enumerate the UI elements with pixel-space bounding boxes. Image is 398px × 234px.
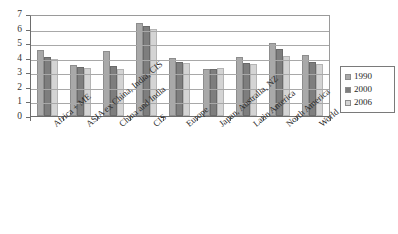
legend-label: 2006 [354, 98, 372, 107]
bar [44, 57, 51, 116]
legend-label: 2000 [354, 85, 372, 94]
x-axis-category-label: Japan, Australia, NZ [217, 121, 223, 129]
x-axis-labels: Africa + MEASIA ex China, India, CISChin… [0, 118, 340, 193]
x-axis-category-label: CIS [151, 121, 157, 129]
chart-legend: 199020002006 [340, 66, 395, 113]
legend-label: 1990 [354, 72, 372, 81]
x-axis-category-label: China and India [117, 121, 123, 129]
x-axis-category-label: Africa + ME [51, 121, 57, 129]
gridline [31, 31, 329, 32]
x-axis-category-label: North America [284, 121, 290, 129]
x-axis-category-label: Latin America [251, 121, 257, 129]
gridline [31, 74, 329, 75]
gridline [31, 45, 329, 46]
y-tick-label: 6 [17, 25, 22, 35]
y-axis: 01234567 [0, 0, 28, 117]
legend-item[interactable]: 2006 [345, 96, 391, 109]
bar [51, 59, 58, 116]
gridline [31, 60, 329, 61]
legend-item[interactable]: 2000 [345, 83, 391, 96]
y-tick-label: 3 [17, 68, 22, 78]
y-tick-label: 5 [17, 39, 22, 49]
legend-swatch-icon [345, 74, 351, 80]
y-tick-label: 1 [17, 97, 22, 107]
gridline [31, 89, 329, 90]
y-tick-label: 2 [17, 83, 22, 93]
x-axis-category-label: ASIA ex China, India, CIS [84, 121, 90, 129]
bar [283, 56, 290, 116]
y-tick-label: 4 [17, 54, 22, 64]
legend-swatch-icon [345, 100, 351, 106]
x-axis-category-label: World [317, 121, 323, 129]
x-axis-category-label: Europe [184, 121, 190, 129]
bar [210, 69, 217, 116]
y-tick-label: 7 [17, 10, 22, 20]
chart-root: 01234567 Africa + MEASIA ex China, India… [0, 0, 398, 234]
bar [169, 58, 176, 116]
legend-item[interactable]: 1990 [345, 70, 391, 83]
legend-swatch-icon [345, 87, 351, 93]
